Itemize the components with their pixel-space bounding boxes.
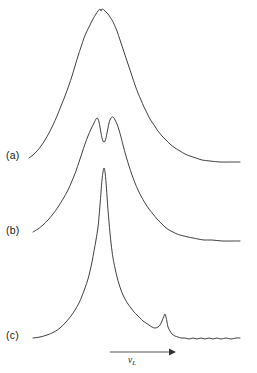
spectrum-label-a: (a) bbox=[6, 150, 19, 161]
spectra-figure: (a) (b) (c) νL bbox=[0, 0, 257, 373]
spectrum-label-b: (b) bbox=[6, 225, 19, 236]
spectrum-label-c: (c) bbox=[6, 330, 19, 341]
x-axis-subscript: L bbox=[132, 359, 136, 367]
x-axis-label: νL bbox=[128, 356, 136, 367]
spectra-plot bbox=[0, 0, 257, 373]
plot-background bbox=[0, 0, 257, 373]
